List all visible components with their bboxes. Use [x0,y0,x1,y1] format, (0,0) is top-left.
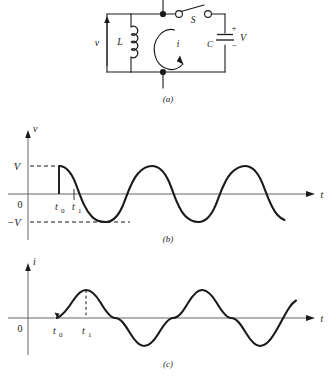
voltage-origin-label: 0 [18,199,23,210]
panel-c-caption: (c) [163,359,173,369]
figure-lc-circuit-oscillation: v L C V + − S i (a) v t V −V 0 t 0 t 1 (… [0,0,336,381]
voltage-tick-V: V [14,161,22,172]
voltage-t1-label-base: t [72,201,75,212]
voltage-axes [8,138,308,240]
voltage-t0-label-sub: 0 [61,207,65,215]
switch-right-terminal [205,11,212,18]
capacitor-minus-sign: − [231,40,236,50]
panel-a-caption: (a) [163,94,174,104]
current-plot-panel: i t 0 t 0 t 1 (c) [0,255,336,381]
panel-b-caption: (b) [163,234,174,244]
node-dot-top [160,11,166,17]
current-t1-label: t 1 [82,325,92,339]
current-x-axis-arrowhead [306,315,315,321]
voltage-t1-label-sub: 1 [78,207,82,215]
current-y-axis-label: i [33,256,36,267]
circuit-diagram-panel: v L C V + − S i (a) [0,0,336,110]
current-loop-arrow [154,30,183,70]
voltage-x-axis-label: t [321,189,324,200]
voltage-plot-panel: v t V −V 0 t 0 t 1 (b) [0,120,336,245]
source-voltage-label: v [95,37,100,48]
current-t0-label-base: t [53,325,56,336]
current-x-axis-label: t [321,313,324,324]
switch-blade [181,5,204,12]
node-dot-bottom [160,69,166,75]
switch-label: S [191,15,196,25]
voltage-y-axis-arrowhead [25,130,31,138]
current-t1-label-base: t [82,325,85,336]
capacitor-label: C [207,39,214,49]
current-t1-label-sub: 1 [88,331,92,339]
voltage-t1-label: t 1 [72,201,82,215]
capacitor-voltage-label: V [240,32,248,43]
current-origin-label: 0 [18,323,23,334]
inductor-label: L [116,36,123,47]
voltage-y-axis-label: v [33,123,38,134]
current-label: i [177,39,180,49]
source-voltage-arrow [104,16,110,66]
current-y-axis-arrowhead [25,263,31,271]
current-t0-label-sub: 0 [59,331,63,339]
voltage-tick-negV: −V [7,217,22,228]
current-axes [8,271,308,355]
current-t0-label: t 0 [53,325,63,339]
voltage-t0-label: t 0 [55,201,65,215]
voltage-x-axis-arrowhead [306,191,315,197]
inductor-symbol [131,26,138,57]
voltage-t0-label-base: t [55,201,58,212]
capacitor-plus-sign: + [231,23,236,33]
